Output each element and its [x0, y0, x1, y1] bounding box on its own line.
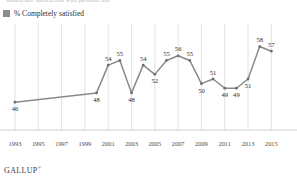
data-point-label: 58 — [256, 36, 263, 43]
x-axis-tick-1993: 1993 — [9, 140, 22, 148]
legend-swatch-icon — [3, 10, 10, 17]
x-axis-tick-1997: 1997 — [55, 140, 68, 148]
data-point-label: 48 — [128, 96, 135, 103]
data-point-label: 50 — [198, 87, 205, 94]
x-axis-tick-2005: 2005 — [148, 140, 161, 148]
series-point-labels: 4648545548545255565550514949515857 — [12, 36, 276, 112]
x-axis-tick-1999: 1999 — [79, 140, 92, 148]
gallup-wordmark: GALLUP — [4, 166, 38, 175]
data-point-label: 51 — [245, 82, 252, 89]
x-axis-tick-2015: 2015 — [265, 140, 278, 148]
x-axis-tick-2003: 2003 — [125, 140, 138, 148]
data-point-label: 55 — [117, 50, 124, 57]
x-axis-tick-2013: 2013 — [242, 140, 255, 148]
x-axis-tick-labels: 1993199519971999200120032005200720092011… — [0, 140, 297, 152]
data-point-label: 51 — [210, 69, 217, 76]
clipped-headline-fragment: Americans' satisfaction with personal li… — [6, 0, 156, 3]
x-axis-tick-2009: 2009 — [195, 140, 208, 148]
x-axis-tick-2011: 2011 — [218, 140, 231, 148]
gallup-brand-footer: GALLUP® — [4, 163, 41, 176]
data-point-label: 49 — [221, 91, 228, 98]
legend-label: % Completely satisfied — [14, 9, 84, 18]
data-point-label: 54 — [105, 55, 112, 62]
registered-mark-icon: ® — [38, 165, 41, 170]
data-point-label: 57 — [268, 41, 275, 48]
data-point-label: 49 — [233, 91, 240, 98]
data-point-label: 46 — [12, 105, 19, 112]
data-point-label: 54 — [140, 55, 147, 62]
chart-legend: % Completely satisfied — [3, 8, 84, 18]
data-point-label: 55 — [186, 50, 193, 57]
data-point-label: 48 — [93, 96, 100, 103]
x-axis-tick-1995: 1995 — [32, 140, 45, 148]
chart-gridlines — [15, 24, 271, 130]
data-point-label: 56 — [175, 45, 182, 52]
gallup-chart-page: Americans' satisfaction with personal li… — [0, 0, 297, 183]
chart-plot-area: 4648545548545255565550514949515857 — [0, 24, 297, 138]
data-point-label: 52 — [152, 77, 159, 84]
x-axis-tick-2001: 2001 — [102, 140, 115, 148]
x-axis-tick-2007: 2007 — [172, 140, 185, 148]
data-point-label: 55 — [163, 50, 170, 57]
line-chart-svg: 4648545548545255565550514949515857 — [0, 24, 297, 138]
